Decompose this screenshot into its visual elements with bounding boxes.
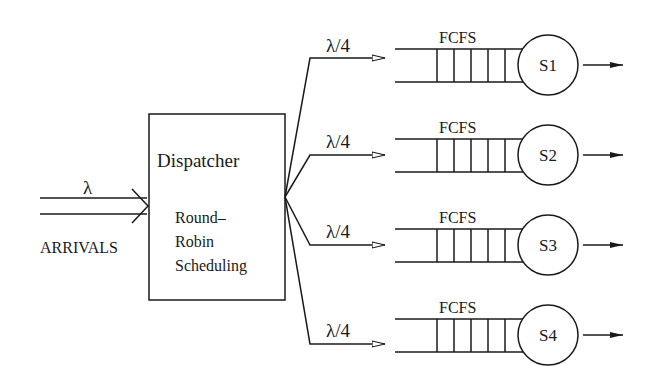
server-4-label: S4 — [518, 327, 578, 344]
policy-line-1: Round– — [175, 210, 226, 226]
policy-line-2: Robin — [175, 234, 214, 250]
queue-1-label: FCFS — [439, 30, 476, 46]
server-1-label: S1 — [518, 57, 578, 74]
dispatch-branches — [285, 58, 385, 344]
policy-line-3: Scheduling — [175, 258, 247, 274]
queue-2 — [395, 139, 525, 172]
branch-3-rate: λ/4 — [326, 222, 350, 241]
arrivals-arrow — [40, 189, 148, 223]
queue-4 — [395, 319, 525, 352]
queue-3-label: FCFS — [439, 210, 476, 226]
arrivals-label: ARRIVALS — [40, 240, 118, 256]
arrival-rate-label: λ — [83, 178, 92, 197]
queue-3 — [395, 229, 525, 262]
queue-2-label: FCFS — [439, 120, 476, 136]
branch-2-rate: λ/4 — [326, 132, 350, 151]
dispatcher-title: Dispatcher — [157, 151, 239, 170]
branch-4-rate: λ/4 — [326, 321, 350, 340]
queue-1 — [395, 49, 525, 82]
server-3-label: S3 — [518, 237, 578, 254]
branch-1-rate: λ/4 — [326, 36, 350, 55]
queue-4-label: FCFS — [439, 300, 476, 316]
server-2-label: S2 — [518, 147, 578, 164]
